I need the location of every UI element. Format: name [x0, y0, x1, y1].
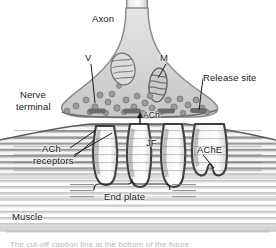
label-vesicle: V — [85, 52, 91, 63]
label-nerve-terminal-line1: Nerve — [20, 89, 46, 100]
label-muscle: Muscle — [12, 211, 43, 222]
label-ach-receptors-line2: receptors — [33, 155, 74, 166]
label-axon: Axon — [92, 13, 114, 24]
label-nerve-terminal-line2: terminal — [16, 101, 51, 112]
label-mitochondrion: M — [160, 52, 168, 63]
junctional-fold-1 — [93, 126, 117, 185]
caption-clipped-text: The cut-off caption line at the bottom o… — [10, 239, 268, 247]
label-junctional-fold: JF — [146, 137, 157, 148]
label-ach: ACh — [143, 110, 160, 121]
label-end-plate: End plate — [104, 191, 145, 202]
caption-clip-band — [6, 231, 270, 232]
junctional-fold-2 — [127, 124, 151, 187]
junctional-fold-3 — [161, 124, 185, 187]
label-acetylcholinesterase: AChE — [197, 144, 222, 155]
neuromuscular-junction-figure: Axon V M Release site Nerve terminal ACh… — [0, 0, 276, 248]
label-release-site: Release site — [203, 72, 256, 83]
label-ach-receptors-line1: ACh — [42, 143, 61, 154]
